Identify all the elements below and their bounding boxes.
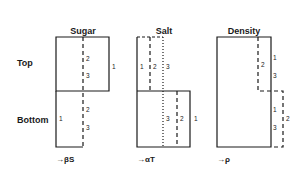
density-top-label-2: 2 xyxy=(261,61,265,68)
density-axis-label: →ρ xyxy=(217,155,230,164)
sugar-bottom-label-1: 1 xyxy=(59,115,63,122)
salt-bottom-label-3: 3 xyxy=(166,115,170,122)
salt-bottom-label-1: 1 xyxy=(194,115,198,122)
sugar-bottom-label-2: 2 xyxy=(86,106,90,113)
sugar-top-label-1: 1 xyxy=(112,63,116,70)
salt-top-label-3: 3 xyxy=(166,63,170,70)
sugar-top-label-3: 3 xyxy=(86,72,90,79)
profiles-diagram xyxy=(0,0,304,175)
sugar-top-label-2: 2 xyxy=(86,55,90,62)
density-bottom-label-2: 2 xyxy=(286,115,290,122)
salt-top-label-1: 1 xyxy=(140,63,144,70)
density-top-label-1: 1 xyxy=(273,54,277,61)
density-bottom-label-1: 1 xyxy=(273,106,277,113)
salt-top-label-2: 2 xyxy=(153,63,157,70)
density-solid-profile xyxy=(217,37,271,147)
sugar-axis-label: →βS xyxy=(56,155,74,164)
salt-axis-label: →αT xyxy=(137,155,155,164)
density-top-label-3: 3 xyxy=(273,72,277,79)
sugar-bottom-label-3: 3 xyxy=(86,124,90,131)
salt-bottom-label-2: 2 xyxy=(180,115,184,122)
density-bottom-label-3: 3 xyxy=(273,124,277,131)
